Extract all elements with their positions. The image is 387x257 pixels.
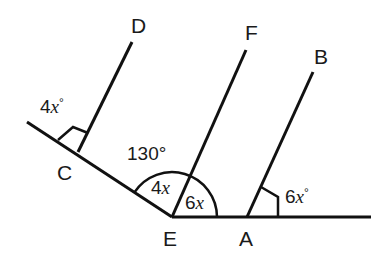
label-a: A: [239, 227, 253, 250]
label-c: C: [57, 161, 72, 184]
label-f: F: [245, 21, 258, 44]
angle-marker-a: [261, 187, 278, 217]
line-ce-extended: [27, 122, 172, 217]
segment-cd: [78, 42, 132, 152]
angle-label-a: 6x°: [285, 186, 309, 207]
angle-a-coef: 6: [285, 186, 296, 207]
angle-label-c: 4x°: [40, 96, 64, 117]
label-b: B: [314, 45, 328, 68]
geometry-diagram: D F B C E A 4x° 130° 4x 6x 6x°: [0, 0, 387, 257]
inner-left-var: x: [161, 177, 171, 198]
label-d: D: [131, 14, 146, 37]
inner-right-var: x: [195, 192, 205, 213]
angle-c-coef: 4: [40, 96, 51, 117]
angle-label-inner-right: 6x: [185, 192, 205, 213]
inner-right-coef: 6: [185, 192, 196, 213]
angle-c-deg: °: [59, 96, 64, 110]
inner-left-coef: 4: [151, 177, 162, 198]
label-e: E: [163, 227, 177, 250]
angle-label-inner-left: 4x: [151, 177, 171, 198]
angle-label-130: 130°: [127, 143, 166, 164]
angle-a-deg: °: [304, 186, 309, 200]
